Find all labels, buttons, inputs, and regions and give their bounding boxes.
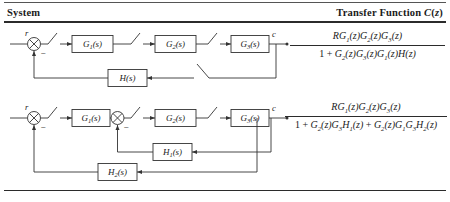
row2-sampler-3: [208, 107, 217, 118]
row1-sampler-3: [208, 33, 217, 44]
row1-arrow-1: [67, 42, 72, 46]
row-1-transfer-function: RG1(z)G2(z)G3(z) 1 + G2(z)G3(z)G1(z)H(z): [290, 30, 445, 62]
row2-minus-sign-1: −: [40, 122, 45, 132]
row2-arrow-h2-out: [32, 125, 36, 130]
row-2-diagram-group: r − G1(s) −: [10, 102, 289, 181]
row-2-transfer-function: RG1(z)G2(z)G3(z) 1 + G2(z)G3H1(z) + G2(z…: [285, 101, 447, 133]
row1-sampler-4: [197, 64, 209, 78]
row1-minus-sign: −: [40, 48, 45, 58]
row2-block-G1-label: G1(s): [81, 113, 100, 124]
row2-arrow-2: [150, 116, 155, 120]
row-1-numerator: RG1(z)G2(z)G3(z): [290, 30, 445, 45]
row1-arrow-3: [226, 42, 231, 46]
row2-output-label: c: [272, 103, 276, 113]
row-1-fraction-bar: [290, 45, 445, 46]
row-2-denominator: 1 + G2(z)G3H1(z) + G2(z)G1G3H2(z): [285, 118, 447, 133]
row1-input-label: r: [25, 28, 29, 38]
row2-arrow-h1-in: [192, 150, 197, 154]
row1-sampler-2: [131, 33, 140, 44]
row-2-fraction-bar: [285, 116, 447, 117]
row-1-diagram-group: r − G1(s) G2(s): [10, 28, 289, 87]
row1-sampler-1: [48, 33, 57, 44]
row1-block-G2-label: G2(s): [166, 39, 185, 50]
row2-input-label: r: [25, 102, 29, 112]
row2-arrow-h2-in: [137, 170, 142, 174]
row2-arrow-3: [226, 116, 231, 120]
system-transfer-function-table: System Transfer Function C(z) r − G1(s): [0, 0, 450, 202]
row1-arrow-4: [147, 76, 152, 80]
row2-arrow-h1-out: [116, 125, 120, 130]
row1-output-node: [286, 43, 289, 46]
row1-block-G1-label: G1(s): [83, 39, 102, 50]
row2-sampler-2: [131, 107, 140, 118]
row2-block-G2-label: G2(s): [166, 113, 185, 124]
row2-block-H1-label: H1(s): [162, 147, 182, 158]
row1-output-label: c: [272, 29, 276, 39]
row-2-numerator: RG1(z)G2(z)G3(z): [285, 101, 447, 116]
row2-arrow-1: [67, 116, 72, 120]
row1-arrow-5: [32, 51, 36, 56]
row1-block-H-label: H(s): [119, 73, 136, 83]
row1-arrow-2: [150, 42, 155, 46]
row2-sampler-1: [48, 107, 57, 118]
row2-minus-sign-2: −: [123, 122, 128, 132]
row1-block-G3-label: G3(s): [240, 39, 259, 50]
row-1-denominator: 1 + G2(z)G3(z)G1(z)H(z): [290, 47, 445, 62]
row2-block-H2-label: H2(s): [107, 167, 127, 178]
